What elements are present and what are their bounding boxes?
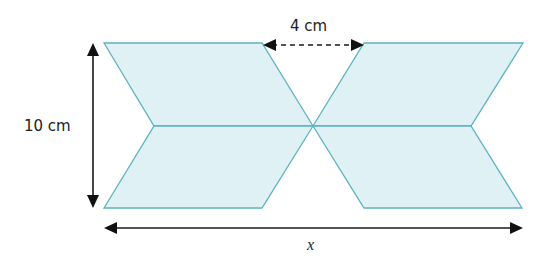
diagram-canvas: 10 cm 4 cm x — [0, 0, 547, 259]
top-left-parallelogram — [104, 43, 313, 126]
width-label: x — [306, 236, 314, 253]
height-label: 10 cm — [24, 117, 71, 135]
width-dimension-arrow — [104, 222, 523, 234]
arrowhead-right-icon — [510, 222, 523, 234]
arrowhead-up-icon — [87, 43, 99, 56]
bottom-left-parallelogram — [104, 126, 313, 208]
gap-dimension-arrow — [263, 39, 364, 51]
bottom-right-parallelogram — [313, 126, 522, 208]
arrowhead-down-icon — [87, 195, 99, 208]
arrowhead-left-icon — [104, 222, 117, 234]
height-dimension-arrow — [87, 43, 99, 208]
top-right-parallelogram — [313, 43, 523, 126]
gap-label: 4 cm — [290, 17, 327, 35]
